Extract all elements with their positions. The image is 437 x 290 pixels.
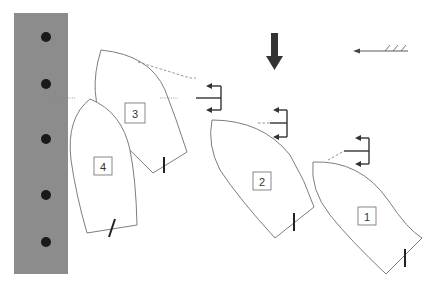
bracket-indicator-3 — [196, 83, 221, 113]
boat-2-label: 2 — [259, 176, 265, 188]
arrow-left-icon — [355, 135, 361, 141]
boat-2: 2 — [211, 120, 314, 238]
boat-1: 1 — [313, 151, 422, 274]
bollard-2 — [41, 79, 51, 89]
dock — [14, 13, 68, 274]
bollard-3 — [41, 134, 51, 144]
current-arrow-down-icon — [266, 33, 283, 70]
arrow-left-icon — [206, 107, 212, 113]
arrow-left-icon — [355, 161, 361, 167]
bracket-indicator-1 — [344, 135, 369, 167]
boat-4-label: 4 — [100, 161, 106, 173]
bollard-5 — [41, 237, 51, 247]
boat-3-label: 3 — [132, 108, 138, 120]
arrow-left-icon — [273, 107, 279, 113]
boat-1-dashed-line — [328, 151, 344, 160]
arrow-left-icon — [206, 83, 212, 89]
bollard-4 — [41, 190, 51, 200]
bollard-1 — [41, 32, 51, 42]
mooring-diagram: 3 4 2 1 — [0, 0, 437, 290]
wind-arrow-left-icon — [353, 45, 408, 54]
boat-1-label: 1 — [364, 211, 370, 223]
bracket-indicator-2 — [270, 107, 287, 140]
